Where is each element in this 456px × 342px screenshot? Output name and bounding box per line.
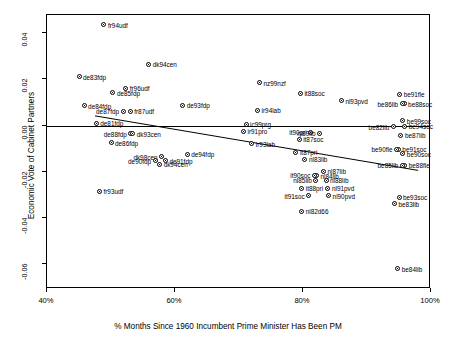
- data-point-label: be88soc: [408, 100, 432, 107]
- data-point: [244, 122, 249, 127]
- y-tick-mark: [42, 32, 46, 33]
- data-point-label: de93fdp: [187, 102, 210, 109]
- scatter-plot: fr94udfdk94cende83fdpnz99nzffr96udfde85f…: [0, 0, 456, 342]
- x-tick-label: 80%: [294, 296, 309, 305]
- data-point-label: nl85lib: [293, 177, 311, 184]
- x-tick-mark: [174, 288, 175, 292]
- data-point-label: be85lib: [378, 162, 399, 169]
- data-point-label: it87soc: [303, 136, 323, 143]
- x-tick-mark: [46, 288, 47, 292]
- data-point-label: be88fle: [409, 162, 430, 169]
- y-tick-mark: [42, 125, 46, 126]
- data-point-label: de90fdp: [128, 157, 151, 164]
- data-point: [397, 195, 402, 200]
- y-tick-mark: [42, 263, 46, 264]
- data-point-label: fr87udf: [134, 108, 154, 115]
- data-point-label: be91fle: [404, 91, 425, 98]
- data-point: [128, 109, 133, 114]
- data-point: [109, 140, 114, 145]
- y-tick-mark: [42, 217, 46, 218]
- data-point: [299, 209, 304, 214]
- data-point: [121, 109, 126, 114]
- data-point-label: be90fle: [371, 146, 392, 153]
- data-point-label: be86lib: [378, 100, 399, 107]
- x-tick-label: 40%: [38, 296, 53, 305]
- data-point-label: ir94lab: [262, 107, 281, 114]
- data-point-label: fr94udf: [108, 21, 128, 28]
- data-point-label: dk94cen: [153, 61, 177, 68]
- data-point-label: be82lib: [369, 123, 390, 130]
- data-point: [146, 62, 151, 67]
- data-point-label: be84lib: [402, 265, 423, 272]
- data-point-label: nl88lib: [330, 177, 348, 184]
- x-tick-label: 60%: [166, 296, 181, 305]
- data-point: [394, 147, 399, 152]
- x-tick-mark: [302, 288, 303, 292]
- data-point-label: fr93udf: [103, 188, 123, 195]
- data-point: [180, 103, 185, 108]
- data-point: [157, 162, 162, 167]
- data-point-label: be94soc: [409, 123, 433, 130]
- data-point: [255, 108, 260, 113]
- data-point-label: de83fdp: [83, 73, 106, 80]
- data-point: [299, 186, 304, 191]
- data-point-label: it88soc: [304, 90, 324, 97]
- data-point: [400, 163, 405, 168]
- data-point: [97, 189, 102, 194]
- data-point-label: nl93pvd: [345, 97, 367, 104]
- data-point-label: de88fdp: [104, 130, 127, 137]
- data-point-label: nl82d66: [306, 208, 329, 215]
- y-tick-mark: [42, 171, 46, 172]
- data-point: [324, 178, 329, 183]
- data-point-label: be87lib: [405, 132, 426, 139]
- data-point-label: de85fdp: [117, 89, 140, 96]
- data-point-label: de86fdp: [115, 139, 138, 146]
- data-point: [402, 124, 407, 129]
- data-point-label: it91soc: [285, 192, 305, 199]
- data-point-label: ir91pro: [247, 128, 267, 135]
- data-point-label: nl83lib: [309, 156, 327, 163]
- data-point-label: be83lib: [399, 200, 420, 207]
- y-tick-mark: [42, 78, 46, 79]
- plot-area: fr94udfdk94cende83fdpnz99nzffr96udfde85f…: [46, 14, 430, 288]
- data-point-label: ir93lab: [256, 140, 275, 147]
- y-axis-label: Economic Vote of Cabinet Partners: [27, 41, 36, 271]
- data-point-label: de87fdp: [96, 108, 119, 115]
- data-point: [82, 103, 87, 108]
- data-point: [185, 152, 190, 157]
- data-point-label: nl91pvd: [332, 185, 354, 192]
- data-point-label: de94fdp: [191, 151, 214, 158]
- x-tick-label: 100%: [420, 296, 439, 305]
- x-tick-mark: [430, 288, 431, 292]
- data-point: [391, 124, 396, 129]
- data-point-label: nl90pvd: [333, 192, 355, 199]
- data-point-label: it88pri: [306, 185, 323, 192]
- data-point: [241, 129, 246, 134]
- data-point-label: dk93cen: [137, 130, 161, 137]
- data-point-label: dk94cen: [164, 161, 188, 168]
- data-point-label: be90soc: [407, 150, 431, 157]
- data-point: [298, 91, 303, 96]
- data-point: [312, 173, 317, 178]
- data-point-label: de81fdp: [100, 120, 123, 127]
- x-axis-label: % Months Since 1960 Incumbent Prime Mini…: [0, 322, 456, 331]
- data-point: [94, 121, 99, 126]
- data-point-label: nz99nzf: [263, 79, 285, 86]
- data-point: [297, 137, 302, 142]
